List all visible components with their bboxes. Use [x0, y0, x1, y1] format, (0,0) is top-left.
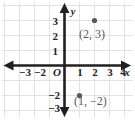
- y-tick-label-pos2: 2: [53, 30, 59, 42]
- x-tick-label-neg2: −2: [34, 66, 46, 78]
- data-point-b-label: (1, −2): [74, 94, 107, 108]
- y-tick-label-pos1: 1: [53, 45, 59, 57]
- data-point-a: [92, 18, 97, 23]
- coordinate-plane-figure: −3 −2 1 2 3 4 O 3 2 1 −2 −3 x y (2, 3) (…: [0, 0, 135, 120]
- y-tick-label-neg3: −3: [48, 102, 60, 114]
- x-tick-label-pos2: 2: [92, 66, 98, 78]
- x-tick-label-pos1: 1: [77, 66, 83, 78]
- coordinate-plane-svg: −3 −2 1 2 3 4 O 3 2 1 −2 −3 x y (2, 3) (…: [0, 0, 135, 120]
- x-axis-name: x: [123, 67, 129, 78]
- x-tick-label-neg3: −3: [19, 66, 31, 78]
- data-point-a-label: (2, 3): [79, 27, 105, 41]
- origin-label: O: [53, 66, 61, 78]
- y-axis-name: y: [69, 6, 76, 17]
- x-tick-label-pos3: 3: [107, 66, 113, 78]
- y-tick-label-neg2: −2: [48, 89, 60, 101]
- y-tick-label-pos3: 3: [53, 15, 59, 27]
- chart-background: [0, 0, 135, 120]
